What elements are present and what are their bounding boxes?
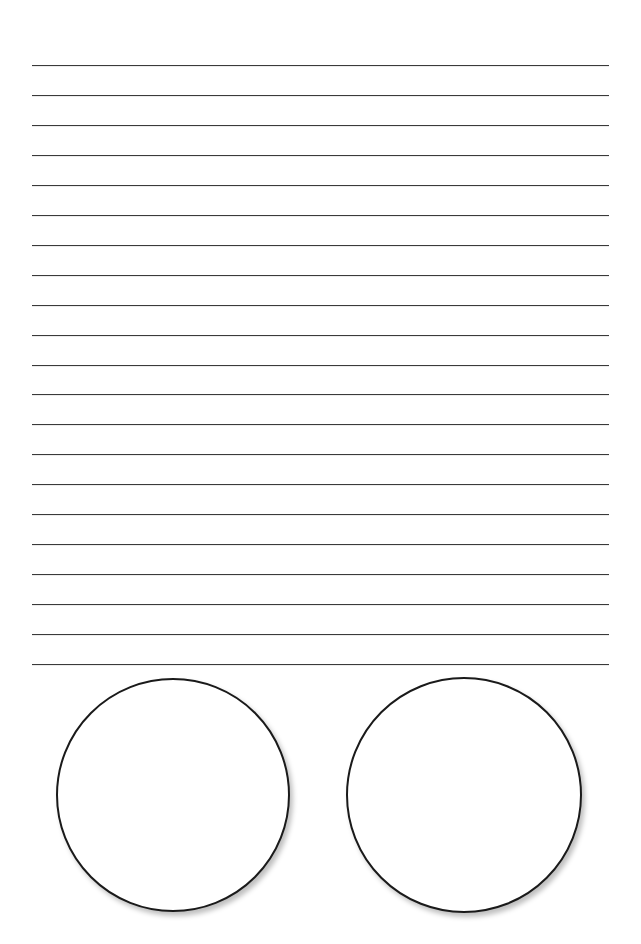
writing-line [32, 95, 609, 96]
writing-line [32, 185, 609, 186]
drawing-circle-left [56, 678, 290, 912]
writing-line [32, 484, 609, 485]
writing-line [32, 275, 609, 276]
writing-line [32, 215, 609, 216]
writing-line [32, 305, 609, 306]
writing-line [32, 574, 609, 575]
drawing-circle-right [346, 677, 582, 913]
writing-line [32, 514, 609, 515]
writing-line [32, 634, 609, 635]
writing-line [32, 544, 609, 545]
writing-line [32, 664, 609, 665]
writing-line [32, 604, 609, 605]
writing-line [32, 65, 609, 66]
writing-line [32, 125, 609, 126]
writing-line [32, 394, 609, 395]
writing-line [32, 424, 609, 425]
writing-line [32, 454, 609, 455]
writing-line [32, 245, 609, 246]
writing-line [32, 155, 609, 156]
writing-line [32, 365, 609, 366]
worksheet-page [0, 0, 641, 944]
writing-line [32, 335, 609, 336]
